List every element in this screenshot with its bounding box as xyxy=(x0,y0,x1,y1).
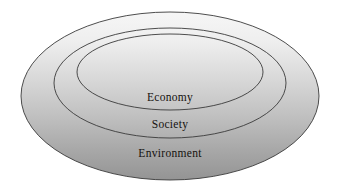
diagram-canvas: Economy Society Environment xyxy=(0,0,340,188)
label-society: Society xyxy=(152,118,189,131)
nested-ellipse-diagram: Economy Society Environment xyxy=(0,0,340,188)
label-environment: Environment xyxy=(138,147,202,159)
label-economy: Economy xyxy=(147,91,193,104)
